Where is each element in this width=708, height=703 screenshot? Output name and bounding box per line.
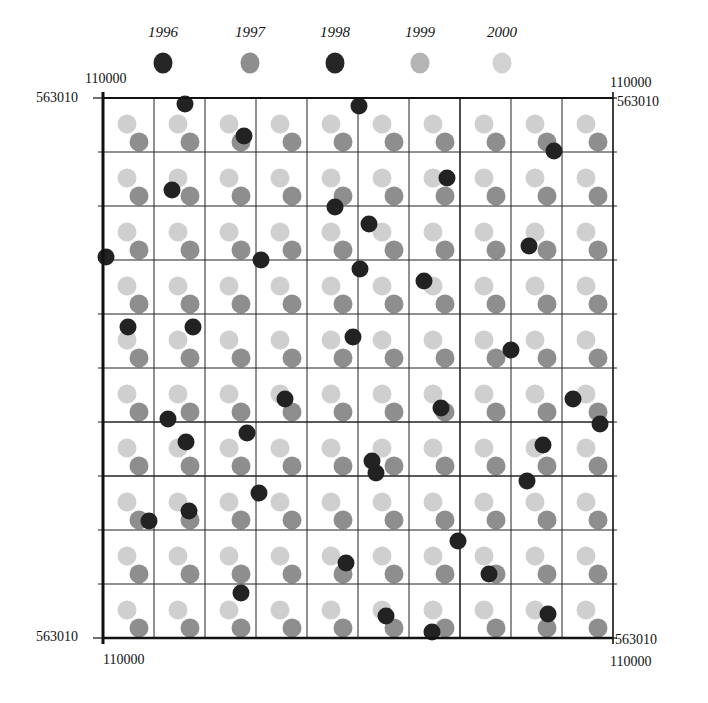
data-point-2000 bbox=[169, 331, 188, 350]
data-point-2000 bbox=[118, 547, 137, 566]
data-point-dark bbox=[352, 261, 369, 278]
data-point-2000 bbox=[118, 439, 137, 458]
data-point-2000 bbox=[220, 601, 239, 620]
data-point-1997 bbox=[283, 511, 302, 530]
data-point-2000 bbox=[373, 547, 392, 566]
data-point-1997 bbox=[487, 295, 506, 314]
data-point-1997 bbox=[385, 565, 404, 584]
data-point-2000 bbox=[169, 277, 188, 296]
data-point-1997 bbox=[538, 187, 557, 206]
data-point-2000 bbox=[271, 331, 290, 350]
data-point-1997 bbox=[589, 565, 608, 584]
data-point-dark bbox=[277, 391, 294, 408]
data-point-2000 bbox=[118, 169, 137, 188]
data-point-2000 bbox=[475, 277, 494, 296]
data-point-2000 bbox=[322, 169, 341, 188]
data-point-2000 bbox=[118, 277, 137, 296]
data-point-1997 bbox=[385, 241, 404, 260]
data-point-dark bbox=[450, 533, 467, 550]
data-point-1997 bbox=[436, 457, 455, 476]
data-point-dark bbox=[253, 252, 270, 269]
data-point-1997 bbox=[283, 295, 302, 314]
data-point-2000 bbox=[577, 115, 596, 134]
data-point-1997 bbox=[232, 187, 251, 206]
data-point-1997 bbox=[487, 403, 506, 422]
data-point-2000 bbox=[526, 277, 545, 296]
data-point-1997 bbox=[538, 403, 557, 422]
data-point-2000 bbox=[475, 115, 494, 134]
data-point-2000 bbox=[577, 601, 596, 620]
data-point-2000 bbox=[169, 547, 188, 566]
data-point-1997 bbox=[181, 241, 200, 260]
data-point-2000 bbox=[526, 493, 545, 512]
data-point-1997 bbox=[334, 241, 353, 260]
data-point-2000 bbox=[169, 223, 188, 242]
data-point-2000 bbox=[577, 439, 596, 458]
data-point-dark bbox=[120, 319, 137, 336]
data-point-2000 bbox=[577, 169, 596, 188]
data-point-1997 bbox=[283, 133, 302, 152]
data-point-2000 bbox=[220, 439, 239, 458]
data-point-1997 bbox=[385, 133, 404, 152]
data-point-1997 bbox=[589, 133, 608, 152]
data-point-1997 bbox=[232, 403, 251, 422]
data-point-dark bbox=[236, 128, 253, 145]
data-point-dark bbox=[521, 238, 538, 255]
data-point-1997 bbox=[232, 295, 251, 314]
data-point-1997 bbox=[181, 295, 200, 314]
data-point-2000 bbox=[220, 331, 239, 350]
data-point-2000 bbox=[577, 493, 596, 512]
data-point-2000 bbox=[424, 493, 443, 512]
data-point-2000 bbox=[322, 277, 341, 296]
data-point-1997 bbox=[334, 133, 353, 152]
data-point-1997 bbox=[589, 457, 608, 476]
data-point-2000 bbox=[169, 601, 188, 620]
data-point-2000 bbox=[373, 169, 392, 188]
data-point-2000 bbox=[424, 547, 443, 566]
data-point-2000 bbox=[322, 439, 341, 458]
data-point-dark bbox=[503, 342, 520, 359]
data-point-1997 bbox=[232, 565, 251, 584]
data-point-2000 bbox=[526, 169, 545, 188]
data-point-dark bbox=[338, 555, 355, 572]
data-point-dark bbox=[185, 319, 202, 336]
data-point-1997 bbox=[589, 349, 608, 368]
data-point-dark bbox=[327, 199, 344, 216]
data-point-1997 bbox=[283, 619, 302, 638]
data-point-2000 bbox=[475, 223, 494, 242]
data-point-1997 bbox=[436, 295, 455, 314]
data-point-1997 bbox=[232, 457, 251, 476]
data-point-2000 bbox=[322, 331, 341, 350]
data-point-2000 bbox=[118, 601, 137, 620]
data-point-1997 bbox=[181, 349, 200, 368]
data-point-dark bbox=[592, 416, 609, 433]
data-point-2000 bbox=[169, 385, 188, 404]
data-point-2000 bbox=[526, 385, 545, 404]
data-point-2000 bbox=[220, 169, 239, 188]
data-point-1997 bbox=[283, 187, 302, 206]
data-point-1997 bbox=[487, 187, 506, 206]
data-point-2000 bbox=[577, 277, 596, 296]
data-point-dark bbox=[361, 216, 378, 233]
data-point-1997 bbox=[232, 349, 251, 368]
data-point-1997 bbox=[181, 457, 200, 476]
data-point-dark bbox=[519, 473, 536, 490]
data-point-dark bbox=[141, 513, 158, 530]
data-point-2000 bbox=[526, 331, 545, 350]
data-point-2000 bbox=[577, 223, 596, 242]
data-point-2000 bbox=[373, 385, 392, 404]
data-point-2000 bbox=[220, 493, 239, 512]
data-point-1997 bbox=[130, 133, 149, 152]
data-point-1997 bbox=[538, 241, 557, 260]
data-point-dark bbox=[368, 465, 385, 482]
data-point-1997 bbox=[385, 187, 404, 206]
data-point-1997 bbox=[283, 457, 302, 476]
data-point-2000 bbox=[271, 493, 290, 512]
data-point-1997 bbox=[385, 457, 404, 476]
data-point-1997 bbox=[538, 565, 557, 584]
data-point-1997 bbox=[436, 349, 455, 368]
data-point-2000 bbox=[271, 547, 290, 566]
data-point-1997 bbox=[589, 511, 608, 530]
data-point-1997 bbox=[130, 241, 149, 260]
data-point-dark bbox=[239, 425, 256, 442]
